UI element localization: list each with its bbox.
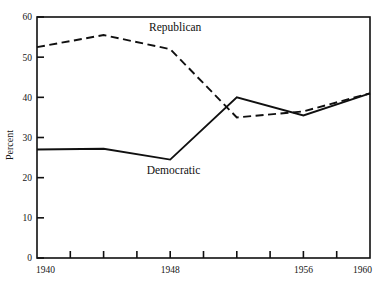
y-tick-label: 10	[23, 213, 33, 223]
y-tick-label: 40	[23, 93, 33, 103]
y-tick-label: 30	[23, 133, 33, 143]
y-tick-label: 60	[23, 12, 33, 22]
y-axis-title: Percent	[4, 130, 15, 160]
x-tick-label: 1948	[161, 265, 180, 275]
x-tick-label: 1940	[36, 265, 55, 275]
x-tick-label: 1956	[294, 265, 313, 275]
series-annotations: RepublicanDemocratic	[147, 21, 202, 176]
series-lines	[37, 35, 370, 160]
y-axis-ticks	[37, 17, 44, 258]
y-tick-label: 20	[23, 173, 33, 183]
plot-border	[37, 17, 370, 258]
y-tick-label: 0	[27, 253, 32, 263]
series-annotation: Democratic	[147, 164, 201, 176]
y-tick-label: 50	[23, 53, 33, 63]
x-tick-label: 1960	[353, 265, 372, 275]
series-line-republican	[37, 35, 370, 117]
line-chart-canvas: 0102030405060 1940194819561960 Percent R…	[0, 0, 391, 285]
series-annotation: Republican	[149, 21, 202, 34]
series-line-democratic	[37, 93, 370, 159]
x-axis-ticks	[70, 251, 336, 258]
x-axis-tick-labels: 1940194819561960	[36, 265, 372, 275]
chart-figure: 0102030405060 1940194819561960 Percent R…	[0, 0, 391, 285]
plot-frame	[37, 17, 370, 258]
y-axis-tick-labels: 0102030405060	[23, 12, 33, 263]
